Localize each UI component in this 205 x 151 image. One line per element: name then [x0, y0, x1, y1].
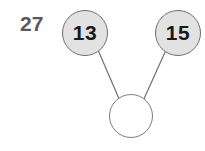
node-sum-blank[interactable] [109, 94, 153, 138]
connector-left-to-sum [98, 50, 120, 101]
node-addend-right-value: 15 [166, 21, 190, 45]
node-addend-left-value: 13 [73, 21, 97, 45]
connector-right-to-sum [143, 50, 166, 101]
node-addend-left[interactable]: 13 [62, 10, 108, 56]
node-addend-right[interactable]: 15 [155, 10, 201, 56]
number-bond-diagram: 27 13 15 [0, 0, 205, 151]
